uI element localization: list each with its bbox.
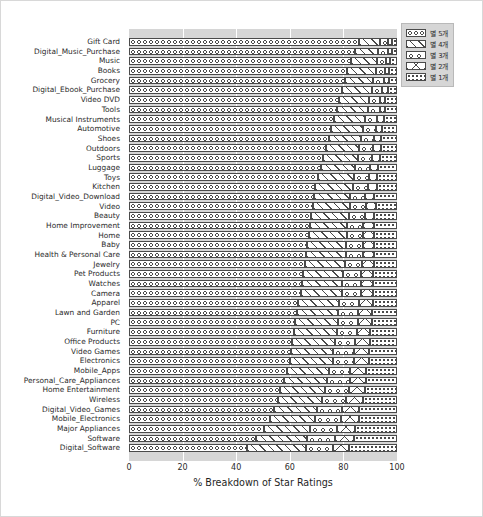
bar-segment xyxy=(384,115,397,123)
bar-segment xyxy=(355,338,370,346)
bar-segment xyxy=(350,377,366,385)
bar-row xyxy=(129,288,397,298)
y-axis-label: Camera xyxy=(1,288,125,298)
y-axis-label: Music xyxy=(1,56,125,66)
bar-segment xyxy=(342,289,361,297)
bar-segment xyxy=(314,193,350,201)
bar-segment xyxy=(129,77,345,85)
bar-segment xyxy=(129,348,291,356)
bar-segment xyxy=(373,270,397,278)
y-axis-label: Personal_Care_Appliances xyxy=(1,376,125,386)
y-axis-label: Home Improvement xyxy=(1,221,125,231)
bar-segment xyxy=(318,173,354,181)
bar-segment xyxy=(373,299,397,307)
y-axis-label: Sports xyxy=(1,153,125,163)
bar-segment xyxy=(355,48,378,56)
bar-row xyxy=(129,240,397,250)
legend-item[interactable]: 별 4개 xyxy=(406,39,449,49)
bar-segment xyxy=(129,318,295,326)
y-axis-label: Gift Card xyxy=(1,37,125,47)
bar-segment xyxy=(359,144,372,152)
bar-segment xyxy=(380,154,397,162)
bar-segment xyxy=(347,222,363,230)
bar-segment xyxy=(388,86,397,94)
legend-item[interactable]: 별 1개 xyxy=(406,72,449,82)
bar-segment xyxy=(129,435,256,443)
bar-segment xyxy=(359,299,372,307)
bar-segment xyxy=(315,415,340,423)
bar-segment xyxy=(290,357,333,365)
legend-swatch-icon xyxy=(406,62,426,70)
bar-row xyxy=(129,95,397,105)
y-axis-label: Lawn and Garden xyxy=(1,308,125,318)
bar-segment xyxy=(365,193,374,201)
y-axis-label: Shoes xyxy=(1,134,125,144)
x-axis-title: % Breakdown of Star Ratings xyxy=(129,477,397,488)
bar-segment xyxy=(306,444,333,452)
bar-segment xyxy=(363,396,397,404)
bar-segment xyxy=(374,260,397,268)
y-axis-label: Wireless xyxy=(1,395,125,405)
legend-swatch-icon xyxy=(406,29,426,37)
bar-segment xyxy=(339,96,368,104)
bar-segment xyxy=(129,386,280,394)
y-axis-label: Digital_Software xyxy=(1,443,125,453)
bar-segment xyxy=(373,289,397,297)
bar-segment xyxy=(310,222,348,230)
bar-segment xyxy=(354,357,369,365)
bar-segment xyxy=(369,173,377,181)
bar-row xyxy=(129,134,397,144)
bar-segment xyxy=(369,348,397,356)
bar-row xyxy=(129,221,397,231)
bar-segment xyxy=(292,338,335,346)
bar-segment xyxy=(278,396,322,404)
legend[interactable]: 별 5개별 4개별 3개별 2개별 1개 xyxy=(401,23,454,87)
bar-row xyxy=(129,269,397,279)
y-axis-category-labels: Gift CardDigital_Music_PurchaseMusicBook… xyxy=(1,37,125,453)
y-axis-label: Digital_Music_Purchase xyxy=(1,47,125,57)
bar-segment xyxy=(392,48,397,56)
bar-segment xyxy=(129,357,290,365)
y-axis-label: Beauty xyxy=(1,211,125,221)
bar-segment xyxy=(307,241,346,249)
bar-segment xyxy=(338,318,358,326)
legend-item[interactable]: 별 2개 xyxy=(406,61,449,71)
bar-row xyxy=(129,337,397,347)
bar-row xyxy=(129,250,397,260)
bar-row xyxy=(129,434,397,444)
legend-item[interactable]: 별 3개 xyxy=(406,50,449,60)
stacked-bars xyxy=(129,37,397,453)
bar-segment xyxy=(337,328,357,336)
bar-segment xyxy=(129,96,339,104)
bar-segment xyxy=(329,135,361,143)
x-tick-label: 20 xyxy=(178,463,188,472)
bar-row xyxy=(129,182,397,192)
bar-segment xyxy=(366,367,397,375)
y-axis-label: Musical Instruments xyxy=(1,114,125,124)
bar-row xyxy=(129,163,397,173)
y-axis-label: Automotive xyxy=(1,124,125,134)
bar-segment xyxy=(129,425,264,433)
legend-label: 별 4개 xyxy=(430,39,449,49)
bar-segment xyxy=(321,164,356,172)
bar-row xyxy=(129,124,397,134)
bar-segment xyxy=(129,406,274,414)
bar-segment xyxy=(374,135,381,143)
y-axis-label: PC xyxy=(1,317,125,327)
bar-row xyxy=(129,56,397,66)
bar-segment xyxy=(129,154,323,162)
y-axis-label: Digital_Video_Games xyxy=(1,405,125,415)
legend-item[interactable]: 별 5개 xyxy=(406,28,449,38)
bar-segment xyxy=(373,144,381,152)
bar-row xyxy=(129,366,397,376)
bar-segment xyxy=(346,251,363,259)
bar-segment xyxy=(326,144,360,152)
bar-row xyxy=(129,347,397,357)
y-axis-label: Mobile_Apps xyxy=(1,366,125,376)
bar-segment xyxy=(294,328,337,336)
bar-segment xyxy=(129,377,284,385)
bar-segment xyxy=(378,48,387,56)
bar-segment xyxy=(342,280,361,288)
legend-swatch-icon xyxy=(406,73,426,81)
bar-row xyxy=(129,259,397,269)
